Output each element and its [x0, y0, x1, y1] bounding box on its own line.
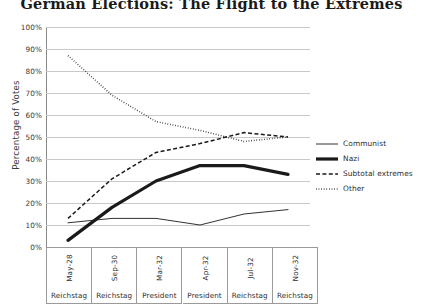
- x-axis-date-label: Apr-32: [183, 250, 227, 286]
- x-axis-type-label: President: [137, 291, 181, 300]
- legend-swatch: [316, 156, 338, 162]
- legend-item: Communist: [316, 136, 423, 151]
- y-axis-tick-label: 90%: [8, 45, 42, 54]
- legend-swatch: [316, 141, 338, 147]
- legend-item: Nazi: [316, 151, 423, 166]
- chart-legend: CommunistNaziSubtotal extremesOther: [316, 136, 423, 196]
- chart-title: German Elections: The Flight to the Extr…: [0, 0, 423, 12]
- x-axis-type-label: Reichstag: [273, 291, 317, 300]
- x-axis-date-label: May-28: [47, 250, 91, 286]
- x-axis-cell: Nov-32Reichstag: [273, 248, 318, 304]
- legend-label: Other: [343, 181, 365, 196]
- y-axis-tick-label: 80%: [8, 67, 42, 76]
- x-axis-cell: Jul-32Reichstag: [228, 248, 273, 304]
- y-axis-tick-label: 60%: [8, 111, 42, 120]
- x-axis-cell: Sep-30Reichstag: [92, 248, 137, 304]
- y-axis-tick-label: 100%: [8, 23, 42, 32]
- y-axis-tick-label: 30%: [8, 177, 42, 186]
- series-line: [68, 56, 288, 142]
- x-axis-type-label: Reichstag: [92, 291, 136, 300]
- y-axis-tick-label: 10%: [8, 221, 42, 230]
- x-axis-date-label: Nov-32: [273, 250, 317, 286]
- series-line: [68, 166, 288, 241]
- y-axis-tick-label: 40%: [8, 155, 42, 164]
- x-axis-cell: Mar-32President: [137, 248, 182, 304]
- legend-label: Nazi: [343, 151, 359, 166]
- x-axis-date-label: Jul-32: [228, 250, 272, 286]
- series-line: [68, 133, 288, 219]
- legend-item: Subtotal extremes: [316, 166, 423, 181]
- x-axis-date-label: Mar-32: [137, 250, 181, 286]
- plot-area: [46, 27, 310, 247]
- y-axis-ticks: 100%90%80%70%60%50%40%30%20%10%0%: [4, 0, 42, 303]
- x-axis-table: May-28ReichstagSep-30ReichstagMar-32Pres…: [46, 247, 318, 304]
- x-axis-cell: Apr-32President: [183, 248, 228, 304]
- legend-item: Other: [316, 181, 423, 196]
- x-axis-type-label: Reichstag: [228, 291, 272, 300]
- legend-label: Subtotal extremes: [343, 166, 413, 181]
- y-axis-tick-label: 70%: [8, 89, 42, 98]
- y-axis-tick-label: 20%: [8, 199, 42, 208]
- x-axis-cell: May-28Reichstag: [47, 248, 92, 304]
- x-axis-type-label: President: [183, 291, 227, 300]
- x-axis-date-label: Sep-30: [92, 250, 136, 286]
- legend-swatch: [316, 186, 338, 192]
- y-axis-tick-label: 50%: [8, 133, 42, 142]
- x-axis-type-label: Reichstag: [47, 291, 91, 300]
- legend-swatch: [316, 171, 338, 177]
- legend-label: Communist: [343, 136, 386, 151]
- y-axis-tick-label: 0%: [8, 243, 42, 252]
